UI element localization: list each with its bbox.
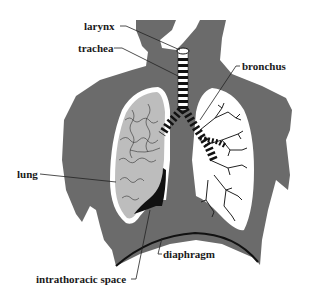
label-lung: lung xyxy=(17,168,38,180)
label-trachea: trachea xyxy=(78,42,113,54)
body-silhouette xyxy=(62,20,292,266)
label-intrathoracic-space: intrathoracic space xyxy=(36,273,126,285)
label-bronchus: bronchus xyxy=(242,60,286,72)
diagram-canvas xyxy=(0,0,309,301)
trachea-rings xyxy=(178,58,188,109)
larynx xyxy=(177,48,189,54)
label-larynx: larynx xyxy=(84,20,115,32)
respiratory-diagram: larynx trachea bronchus lung diaphragm i… xyxy=(0,0,309,301)
label-diaphragm: diaphragm xyxy=(163,248,215,260)
